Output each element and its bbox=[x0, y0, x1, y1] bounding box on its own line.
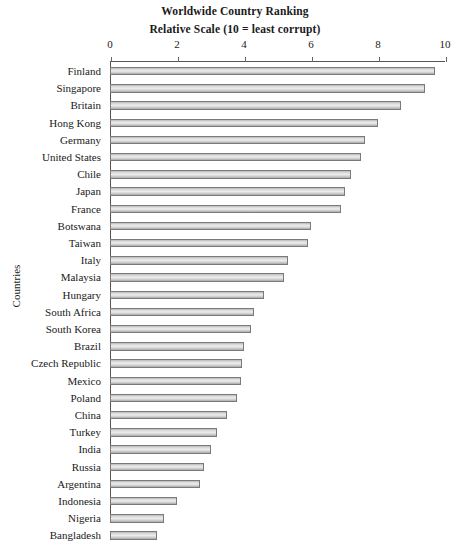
bar-row bbox=[110, 201, 470, 218]
y-label-germany: Germany bbox=[0, 132, 106, 149]
bar-india bbox=[110, 445, 211, 453]
bar-row bbox=[110, 355, 470, 372]
x-tick-label-4: 4 bbox=[241, 38, 247, 50]
bars-layer bbox=[110, 61, 470, 521]
x-tick-label-0: 0 bbox=[107, 38, 113, 50]
bar-row bbox=[110, 459, 470, 476]
x-tick-label-6: 6 bbox=[308, 38, 314, 50]
bar-chile bbox=[110, 170, 351, 178]
y-axis-title: Countries bbox=[10, 246, 22, 326]
x-axis-tick-labels: 0246810 bbox=[0, 38, 470, 52]
bar-taiwan bbox=[110, 239, 308, 247]
bar-argentina bbox=[110, 480, 200, 488]
y-label-mexico: Mexico bbox=[0, 373, 106, 390]
bar-row bbox=[110, 390, 470, 407]
bar-germany bbox=[110, 136, 365, 144]
bar-china bbox=[110, 411, 227, 419]
bar-bangladesh bbox=[110, 531, 157, 539]
bar-mexico bbox=[110, 377, 241, 385]
x-tick-label-10: 10 bbox=[440, 38, 451, 50]
bar-russia bbox=[110, 463, 204, 471]
bar-indonesia bbox=[110, 497, 177, 505]
bar-malaysia bbox=[110, 273, 284, 281]
x-tick-label-8: 8 bbox=[375, 38, 381, 50]
chart-title-block: Worldwide Country Ranking Relative Scale… bbox=[0, 4, 470, 37]
y-label-finland: Finland bbox=[0, 63, 106, 80]
y-label-france: France bbox=[0, 201, 106, 218]
y-label-nigeria: Nigeria bbox=[0, 510, 106, 527]
chart-subtitle: Relative Scale (10 = least corrupt) bbox=[0, 22, 470, 37]
bar-row bbox=[110, 527, 470, 544]
bar-row bbox=[110, 338, 470, 355]
bar-row bbox=[110, 97, 470, 114]
bar-turkey bbox=[110, 428, 217, 436]
y-label-singapore: Singapore bbox=[0, 80, 106, 97]
y-label-britain: Britain bbox=[0, 97, 106, 114]
bar-row bbox=[110, 115, 470, 132]
bar-row bbox=[110, 510, 470, 527]
y-label-czech-republic: Czech Republic bbox=[0, 355, 106, 372]
chart-title: Worldwide Country Ranking bbox=[0, 4, 470, 19]
bar-united-states bbox=[110, 153, 361, 161]
bar-singapore bbox=[110, 84, 425, 92]
bar-row bbox=[110, 269, 470, 286]
y-label-botswana: Botswana bbox=[0, 218, 106, 235]
bar-japan bbox=[110, 187, 345, 195]
bar-nigeria bbox=[110, 514, 164, 522]
bar-botswana bbox=[110, 222, 311, 230]
bar-britain bbox=[110, 101, 401, 109]
y-label-hong-kong: Hong Kong bbox=[0, 115, 106, 132]
bar-south-korea bbox=[110, 325, 251, 333]
bar-row bbox=[110, 218, 470, 235]
bar-row bbox=[110, 407, 470, 424]
bar-row bbox=[110, 476, 470, 493]
bar-france bbox=[110, 205, 341, 213]
bar-row bbox=[110, 441, 470, 458]
bar-poland bbox=[110, 394, 237, 402]
bar-row bbox=[110, 252, 470, 269]
bar-row bbox=[110, 132, 470, 149]
bar-row bbox=[110, 80, 470, 97]
y-label-brazil: Brazil bbox=[0, 338, 106, 355]
bar-row bbox=[110, 373, 470, 390]
y-label-china: China bbox=[0, 407, 106, 424]
y-label-japan: Japan bbox=[0, 183, 106, 200]
x-tick-label-2: 2 bbox=[174, 38, 180, 50]
bar-row bbox=[110, 424, 470, 441]
bar-row bbox=[110, 166, 470, 183]
bar-finland bbox=[110, 67, 435, 75]
y-label-india: India bbox=[0, 441, 106, 458]
bar-row bbox=[110, 287, 470, 304]
bar-row bbox=[110, 183, 470, 200]
bar-hong-kong bbox=[110, 119, 378, 127]
y-label-united-states: United States bbox=[0, 149, 106, 166]
y-label-argentina: Argentina bbox=[0, 476, 106, 493]
y-label-indonesia: Indonesia bbox=[0, 493, 106, 510]
y-label-poland: Poland bbox=[0, 390, 106, 407]
y-label-russia: Russia bbox=[0, 459, 106, 476]
bar-italy bbox=[110, 256, 288, 264]
y-label-bangladesh: Bangladesh bbox=[0, 527, 106, 544]
bar-czech-republic bbox=[110, 359, 242, 367]
bar-south-africa bbox=[110, 308, 254, 316]
bar-row bbox=[110, 304, 470, 321]
bar-row bbox=[110, 63, 470, 80]
bar-brazil bbox=[110, 342, 244, 350]
y-label-chile: Chile bbox=[0, 166, 106, 183]
bar-row bbox=[110, 235, 470, 252]
bar-row bbox=[110, 321, 470, 338]
bar-row bbox=[110, 493, 470, 510]
bar-hungary bbox=[110, 291, 264, 299]
y-label-turkey: Turkey bbox=[0, 424, 106, 441]
bar-row bbox=[110, 149, 470, 166]
